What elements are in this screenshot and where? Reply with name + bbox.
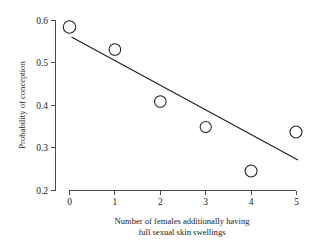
y-axis-ticks: [51, 21, 56, 191]
x-axis-tick-labels: 0 1 2 3 4 5: [67, 197, 299, 207]
x-tick-label-5: 5: [294, 197, 299, 207]
y-axis-title: Probability of conception: [17, 61, 27, 149]
x-tick-label-0: 0: [67, 197, 72, 207]
y-tick-label-0.5: 0.5: [36, 58, 48, 68]
data-points: [63, 21, 302, 177]
y-tick-label-0.3: 0.3: [36, 143, 48, 153]
x-axis-title-line2: full sexual skin swellings: [138, 227, 226, 237]
data-point-4: [245, 165, 257, 177]
data-point-3: [200, 121, 211, 132]
chart-figure: 0.6 0.5 0.4 0.3 0.2 0 1 2 3 4 5: [0, 0, 315, 246]
x-tick-label-4: 4: [249, 197, 254, 207]
y-tick-label-0.6: 0.6: [36, 16, 48, 26]
x-tick-label-1: 1: [113, 197, 118, 207]
scatter-plot: 0.6 0.5 0.4 0.3 0.2 0 1 2 3 4 5: [0, 0, 315, 246]
y-tick-label-0.4: 0.4: [36, 101, 48, 111]
data-point-1: [109, 44, 121, 56]
y-axis-tick-labels: 0.6 0.5 0.4 0.3 0.2: [36, 16, 48, 196]
data-point-2: [155, 96, 167, 108]
x-axis-title-line1: Number of females additionally having: [114, 216, 250, 226]
x-axis-ticks: [70, 191, 297, 196]
y-tick-label-0.2: 0.2: [36, 186, 48, 196]
x-tick-label-3: 3: [203, 197, 208, 207]
x-tick-label-2: 2: [158, 197, 163, 207]
trend-line: [72, 37, 299, 160]
data-point-0: [63, 21, 75, 33]
data-point-5: [290, 126, 302, 138]
